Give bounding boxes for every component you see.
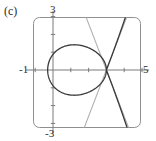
x-axis-min-tick-label: -1 [19, 64, 28, 75]
y-axis-max-tick-label: 3 [50, 4, 56, 15]
panel-label: (c) [4, 5, 17, 17]
figure-panel-c: (c) 3 -1 5 -3 [0, 0, 156, 141]
x-axis-max-tick-label: 5 [143, 64, 149, 75]
plot-frame [34, 18, 141, 128]
y-axis-min-tick-label: -3 [45, 128, 54, 139]
